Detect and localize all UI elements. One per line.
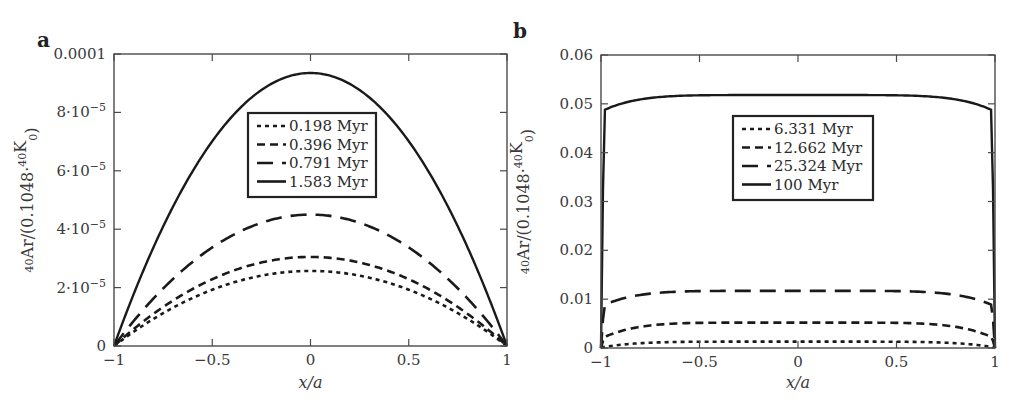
legend-entry: 0.198 Myr [289,117,369,135]
x-axis-title: x/a [786,373,810,392]
y-tick-label: 2·10−5 [56,277,106,297]
series-line [114,215,507,346]
y-axis-title: 40Ar/(0.1048·40K0) [11,127,41,272]
legend-entry: 6.331 Myr [774,120,854,138]
plot-frame [601,55,995,348]
x-tick-label: 0 [306,351,316,369]
x-tick-label: 0.5 [397,351,421,369]
y-tick-label: 0.01 [560,290,593,308]
y-tick-label: 0.0001 [54,45,107,63]
series-line [601,291,995,348]
legend-entry: 0.791 Myr [289,154,369,172]
x-tick-label: −1 [590,353,612,371]
x-tick-label: −1 [103,351,125,369]
y-tick-label: 6·10−5 [56,160,106,180]
x-axis-title: x/a [299,373,323,392]
legend-entry: 100 Myr [774,176,839,194]
legend-entry: 25.324 Myr [774,157,863,175]
y-tick-label: 0 [583,339,593,357]
y-tick-label: 0.06 [560,46,593,64]
y-tick-label: 0.05 [560,95,593,113]
y-axis: 00.010.020.030.040.050.06 [560,46,995,357]
panel-label: b [513,19,527,43]
y-tick-label: 0 [96,337,106,355]
y-tick-label: 4·10−5 [56,218,106,238]
chart-panel-a: a−1−0.500.51x/a02·10−54·10−56·10−58·10−5… [11,28,512,392]
x-tick-label: 0 [793,353,803,371]
legend-entry: 1.583 Myr [289,173,369,191]
y-tick-label: 0.02 [560,241,593,259]
series-line [114,271,507,346]
x-axis: −1−0.500.51 [590,55,1000,371]
legend-entry: 12.662 Myr [774,139,863,157]
x-tick-label: 0.5 [885,353,909,371]
x-tick-label: 1 [502,351,512,369]
panel-label: a [37,28,50,52]
x-tick-label: −0.5 [681,353,717,371]
y-tick-label: 0.04 [560,144,593,162]
y-axis: 02·10−54·10−56·10−58·10−50.0001 [54,45,508,355]
legend: 6.331 Myr12.662 Myr25.324 Myr100 Myr [733,116,873,200]
y-tick-label: 0.03 [560,193,593,211]
plot-frame [114,54,507,346]
legend-entry: 0.396 Myr [289,136,369,154]
series-line [114,257,507,346]
x-tick-label: 1 [990,353,1000,371]
chart-panel-b: b−1−0.500.51x/a00.010.020.030.040.050.06… [507,19,1000,392]
y-tick-label: 8·10−5 [56,101,106,121]
legend: 0.198 Myr0.396 Myr0.791 Myr1.583 Myr [248,113,376,197]
y-axis-title: 40Ar/(0.1048·40K0) [507,129,537,274]
figure: a−1−0.500.51x/a02·10−54·10−56·10−58·10−5… [0,0,1020,407]
x-tick-label: −0.5 [194,351,230,369]
